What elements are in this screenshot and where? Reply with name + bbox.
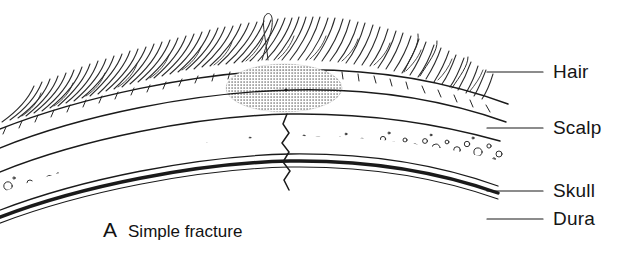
label-scalp: Scalp	[553, 117, 602, 139]
caption-label: Simple fracture	[128, 222, 242, 241]
dura-bottom-line	[0, 167, 498, 227]
label-skull: Skull	[553, 180, 595, 202]
dura-band	[0, 161, 498, 221]
subgaleal-swelling	[226, 64, 342, 112]
fracture-line	[282, 114, 290, 190]
label-hair: Hair	[553, 61, 589, 83]
panel-letter: A	[103, 218, 117, 241]
figure-page: Hair Scalp Skull Dura ASimple fracture	[0, 0, 629, 262]
leader-lines	[487, 72, 543, 219]
label-dura: Dura	[553, 208, 595, 230]
figure-caption: ASimple fracture	[103, 218, 242, 242]
skull-fracture-illustration	[0, 0, 629, 262]
